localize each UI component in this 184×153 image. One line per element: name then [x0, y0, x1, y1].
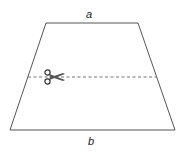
label-top: a [86, 8, 92, 20]
label-bottom: b [88, 135, 94, 147]
trapezoid-diagram: a b [0, 0, 184, 153]
